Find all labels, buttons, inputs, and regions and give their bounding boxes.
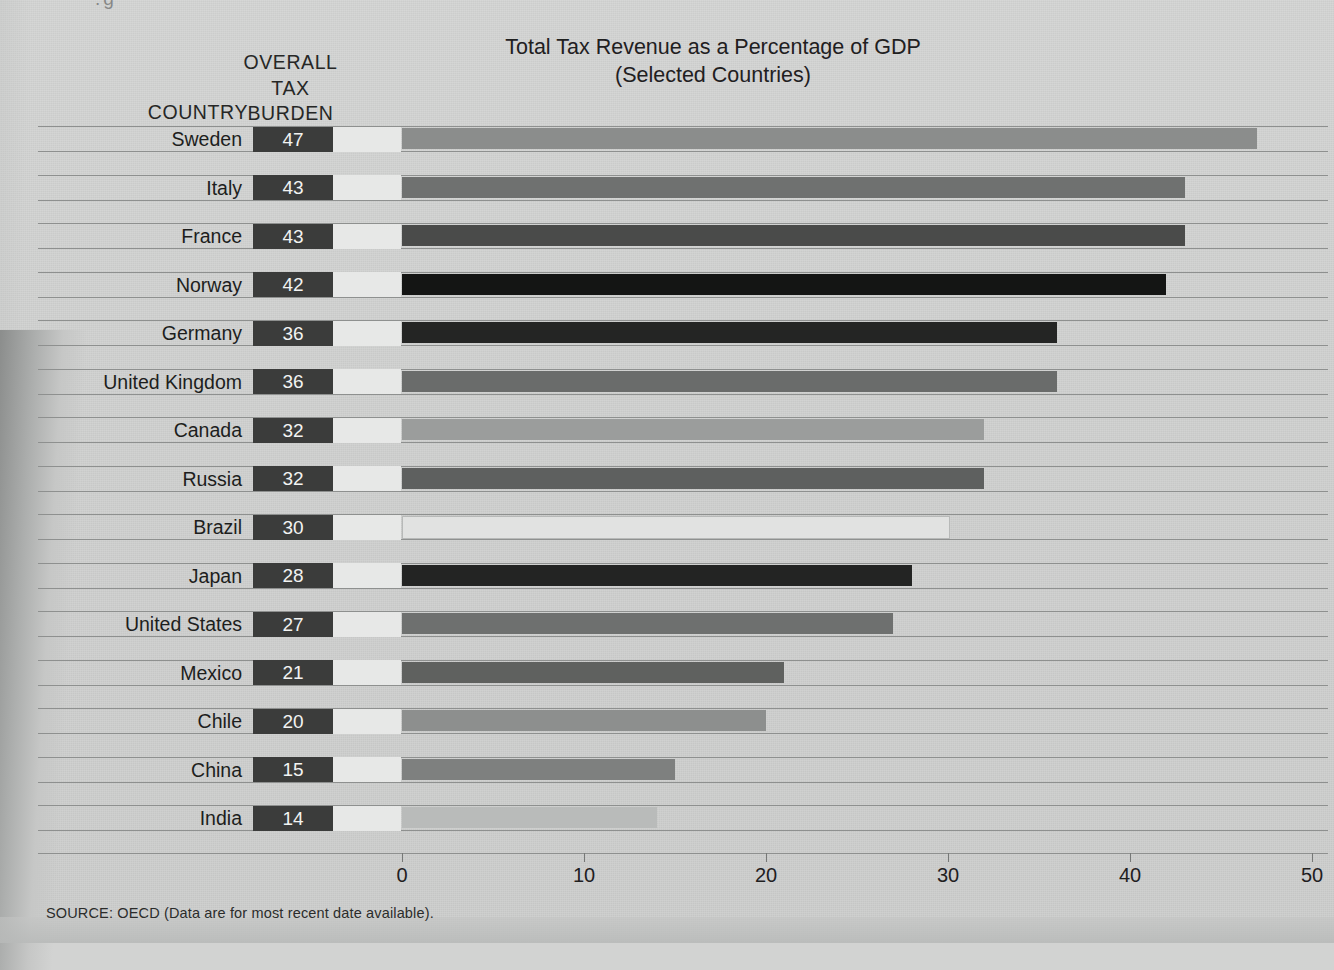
value-box-trailing-block xyxy=(333,660,401,685)
x-axis-tick-label: 50 xyxy=(1282,864,1334,887)
row-rule-bottom xyxy=(38,636,1328,637)
x-axis-tick-label: 0 xyxy=(372,864,432,887)
value-box-trailing-block xyxy=(333,175,401,200)
country-label: Norway xyxy=(38,274,248,297)
value-box-trailing-block xyxy=(333,418,401,443)
country-label: Mexico xyxy=(38,662,248,685)
tax-burden-value: 32 xyxy=(253,466,333,491)
tax-burden-value: 20 xyxy=(253,709,333,734)
country-label: Italy xyxy=(38,177,248,200)
tax-burden-value: 15 xyxy=(253,757,333,782)
tax-burden-value: 43 xyxy=(253,175,333,200)
row-rule-top xyxy=(38,223,1328,224)
row-rule-bottom xyxy=(38,200,1328,201)
bar xyxy=(402,419,984,440)
row-rule-bottom xyxy=(38,491,1328,492)
row-rule-top xyxy=(38,320,1328,321)
chart-row: Italy43 xyxy=(0,175,1334,224)
row-rule-bottom xyxy=(38,345,1328,346)
row-rule-top xyxy=(38,175,1328,176)
tax-burden-value-box: 36 xyxy=(253,321,333,346)
bar xyxy=(402,516,950,539)
row-rule-top xyxy=(38,514,1328,515)
x-axis-tick xyxy=(766,853,767,862)
chart-row: China15 xyxy=(0,757,1334,806)
row-rule-bottom xyxy=(38,588,1328,589)
row-rule-bottom xyxy=(38,248,1328,249)
row-rule-top xyxy=(38,805,1328,806)
country-label: India xyxy=(38,807,248,830)
chart-row: Sweden47 xyxy=(0,126,1334,175)
value-box-trailing-block xyxy=(333,224,401,249)
row-rule-top xyxy=(38,272,1328,273)
country-label: France xyxy=(38,225,248,248)
tax-burden-value: 30 xyxy=(253,515,333,540)
bar xyxy=(402,225,1185,246)
source-note: SOURCE: OECD (Data are for most recent d… xyxy=(46,905,434,921)
tax-burden-value: 36 xyxy=(253,321,333,346)
value-box-trailing-block xyxy=(333,272,401,297)
tax-burden-value-box: 15 xyxy=(253,757,333,782)
tax-burden-value-box: 27 xyxy=(253,612,333,637)
bar xyxy=(402,371,1057,392)
bar xyxy=(402,759,675,780)
x-axis-tick xyxy=(584,853,585,862)
country-label: Russia xyxy=(38,468,248,491)
x-axis-tick-label: 10 xyxy=(554,864,614,887)
tax-burden-value: 21 xyxy=(253,660,333,685)
country-label: United Kingdom xyxy=(38,371,248,394)
row-rule-top xyxy=(38,126,1328,127)
tax-burden-value-box: 21 xyxy=(253,660,333,685)
tax-burden-value: 47 xyxy=(253,127,333,152)
value-box-trailing-block xyxy=(333,127,401,152)
chart-row: France43 xyxy=(0,223,1334,272)
bar xyxy=(402,468,984,489)
bar xyxy=(402,565,912,586)
bar xyxy=(402,322,1057,343)
value-box-trailing-block xyxy=(333,709,401,734)
tax-burden-value-box: 43 xyxy=(253,175,333,200)
tax-burden-value: 32 xyxy=(253,418,333,443)
bar xyxy=(402,662,784,683)
x-axis-tick xyxy=(402,853,403,862)
x-axis-tick-label: 30 xyxy=(918,864,978,887)
bar xyxy=(402,177,1185,198)
x-axis-line xyxy=(38,853,1328,854)
row-rule-top xyxy=(38,757,1328,758)
tax-burden-value-box: 42 xyxy=(253,272,333,297)
x-axis-tick-label: 40 xyxy=(1100,864,1160,887)
tax-burden-value-box: 32 xyxy=(253,418,333,443)
tax-burden-value-box: 43 xyxy=(253,224,333,249)
bar xyxy=(402,710,766,731)
row-rule-top xyxy=(38,611,1328,612)
tax-burden-value-box: 32 xyxy=(253,466,333,491)
country-label: Brazil xyxy=(38,516,248,539)
chart-row: Canada32 xyxy=(0,417,1334,466)
chart-row: United States27 xyxy=(0,611,1334,660)
row-rule-bottom xyxy=(38,297,1328,298)
chart-row: Japan28 xyxy=(0,563,1334,612)
chart-row: Germany36 xyxy=(0,320,1334,369)
row-rule-bottom xyxy=(38,151,1328,152)
tax-burden-value-box: 14 xyxy=(253,806,333,831)
row-rule-top xyxy=(38,708,1328,709)
chart-row: United Kingdom36 xyxy=(0,369,1334,418)
row-rule-bottom xyxy=(38,782,1328,783)
tax-burden-value-box: 36 xyxy=(253,369,333,394)
row-rule-top xyxy=(38,563,1328,564)
tax-burden-value: 27 xyxy=(253,612,333,637)
row-rule-bottom xyxy=(38,685,1328,686)
row-rule-bottom xyxy=(38,394,1328,395)
bar xyxy=(402,128,1257,149)
row-rule-top xyxy=(38,369,1328,370)
value-box-trailing-block xyxy=(333,466,401,491)
tax-burden-value: 14 xyxy=(253,806,333,831)
tax-burden-value: 43 xyxy=(253,224,333,249)
row-rule-top xyxy=(38,660,1328,661)
row-rule-bottom xyxy=(38,733,1328,734)
value-box-trailing-block xyxy=(333,563,401,588)
tax-burden-value-box: 47 xyxy=(253,127,333,152)
chart-row: Chile20 xyxy=(0,708,1334,757)
tax-burden-value: 36 xyxy=(253,369,333,394)
